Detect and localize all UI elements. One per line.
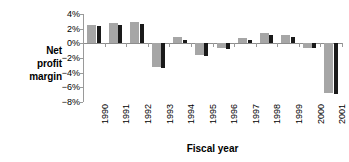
bar-1995-series-black bbox=[204, 43, 208, 55]
y-tick-label-0: 0% bbox=[56, 39, 80, 48]
bar-2001-series-black bbox=[334, 43, 338, 94]
bar-2000-series-gray bbox=[303, 43, 312, 47]
x-label-1990: 1990 bbox=[98, 104, 107, 124]
bar-1994-series-black bbox=[183, 40, 187, 44]
x-label-1997: 1997 bbox=[249, 104, 258, 124]
x-label-1993: 1993 bbox=[163, 104, 172, 124]
bar-group-1999 bbox=[277, 14, 299, 102]
bar-1990-series-gray bbox=[87, 25, 96, 43]
bar-group-1994 bbox=[169, 14, 191, 102]
bar-group-1995 bbox=[191, 14, 213, 102]
y-tick-label-neg6: −6% bbox=[56, 83, 80, 92]
x-label-2000: 2000 bbox=[314, 104, 323, 124]
y-axis-title-line-2: profit bbox=[4, 57, 62, 70]
y-axis-title-line-1: Net bbox=[4, 44, 62, 57]
bar-2000-series-black bbox=[312, 43, 316, 48]
x-label-2001: 2001 bbox=[335, 104, 344, 124]
x-label-1991: 1991 bbox=[119, 104, 128, 124]
bar-group-2000 bbox=[299, 14, 321, 102]
bar-group-2001 bbox=[320, 14, 342, 102]
bar-1993-series-gray bbox=[152, 43, 161, 66]
bar-group-1990 bbox=[83, 14, 105, 102]
y-tick-label-4: 4% bbox=[56, 10, 80, 19]
plot-area bbox=[83, 14, 342, 102]
bar-1996-series-gray bbox=[217, 43, 226, 48]
bar-1992-series-black bbox=[140, 24, 144, 43]
y-tick-label-neg2: −2% bbox=[56, 54, 80, 63]
bar-2001-series-gray bbox=[324, 43, 333, 93]
bar-1999-series-gray bbox=[281, 35, 290, 43]
x-label-1996: 1996 bbox=[227, 104, 236, 124]
bar-1998-series-black bbox=[269, 35, 273, 43]
y-tick-label-2: 2% bbox=[56, 24, 80, 33]
bar-group-1998 bbox=[256, 14, 278, 102]
x-label-1998: 1998 bbox=[270, 104, 279, 124]
bar-1998-series-gray bbox=[260, 33, 269, 43]
y-tick-label-neg4: −4% bbox=[56, 68, 80, 77]
y-axis-title: Net profit margin bbox=[4, 44, 62, 83]
x-axis-title: Fiscal year bbox=[83, 143, 342, 154]
bar-1990-series-black bbox=[97, 26, 101, 43]
bar-1991-series-black bbox=[118, 25, 122, 43]
bar-group-1996 bbox=[213, 14, 235, 102]
bar-group-1997 bbox=[234, 14, 256, 102]
x-label-1995: 1995 bbox=[206, 104, 215, 124]
bar-1992-series-gray bbox=[130, 22, 139, 43]
net-profit-margin-bar-chart: Net profit margin 4%2%0%−2%−4%−6%−8% 199… bbox=[0, 0, 349, 162]
x-axis-category-labels: 1990199119921993199419951996199719981999… bbox=[83, 104, 342, 140]
bar-1991-series-gray bbox=[109, 23, 118, 44]
bar-1999-series-black bbox=[291, 37, 295, 43]
bar-1997-series-black bbox=[248, 40, 252, 44]
y-tick-mark bbox=[79, 102, 83, 103]
y-tick-label-neg8: −8% bbox=[56, 98, 80, 107]
y-axis-title-line-3: margin bbox=[4, 70, 62, 83]
bar-group-1992 bbox=[126, 14, 148, 102]
x-label-1992: 1992 bbox=[141, 104, 150, 124]
bar-group-1993 bbox=[148, 14, 170, 102]
y-axis-tick-labels: 4%2%0%−2%−4%−6%−8% bbox=[56, 0, 80, 112]
bar-1994-series-gray bbox=[173, 37, 182, 43]
x-tick-mark bbox=[342, 43, 343, 47]
bar-1996-series-black bbox=[226, 43, 230, 49]
x-label-1994: 1994 bbox=[184, 104, 193, 124]
bar-group-1991 bbox=[105, 14, 127, 102]
bar-1995-series-gray bbox=[195, 43, 204, 55]
x-label-1999: 1999 bbox=[292, 104, 301, 124]
bar-1993-series-black bbox=[161, 43, 165, 67]
bar-1997-series-gray bbox=[238, 38, 247, 43]
